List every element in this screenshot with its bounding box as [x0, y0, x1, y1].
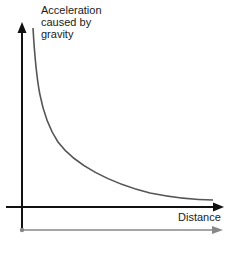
- x-axis-label: Distance: [178, 211, 221, 223]
- y-axis-label: Acceleration caused by gravity: [41, 4, 102, 40]
- distance-arrowhead-icon: [212, 226, 223, 234]
- y-axis-label-line: caused by: [41, 16, 102, 28]
- y-axis-label-line: Acceleration: [41, 4, 102, 16]
- acceleration-curve: [33, 28, 213, 200]
- y-axis-arrowhead-icon: [18, 22, 27, 33]
- y-axis-label-line: gravity: [41, 28, 102, 40]
